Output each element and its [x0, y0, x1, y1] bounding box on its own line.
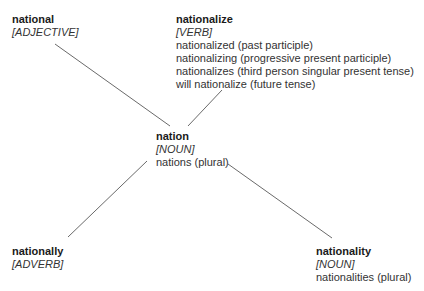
word-label: nation — [156, 130, 229, 143]
inflection-form: will nationalize (future tense) — [176, 78, 414, 91]
node-nationally: nationally [ADVERB] — [12, 245, 63, 271]
part-of-speech: [NOUN] — [316, 258, 411, 271]
part-of-speech: [NOUN] — [156, 143, 229, 156]
part-of-speech: [VERB] — [176, 26, 414, 39]
edge-nation-national — [55, 44, 170, 126]
inflection-form: nationalizing (progressive present parti… — [176, 52, 414, 65]
inflection-form: nationalities (plural) — [316, 271, 411, 284]
edge-nation-nationality — [228, 164, 332, 238]
node-national: national [ADJECTIVE] — [12, 13, 79, 39]
word-label: nationality — [316, 245, 411, 258]
word-label: national — [12, 13, 79, 26]
part-of-speech: [ADVERB] — [12, 258, 63, 271]
node-nationalize: nationalize [VERB] nationalized (past pa… — [176, 13, 414, 91]
edge-nation-nationalize — [188, 90, 222, 126]
inflection-form: nations (plural) — [156, 156, 229, 169]
word-label: nationalize — [176, 13, 414, 26]
edge-nation-nationally — [68, 161, 147, 237]
word-label: nationally — [12, 245, 63, 258]
node-nation-center: nation [NOUN] nations (plural) — [156, 130, 229, 169]
inflection-form: nationalizes (third person singular pres… — [176, 65, 414, 78]
inflection-form: nationalized (past participle) — [176, 39, 414, 52]
node-nationality: nationality [NOUN] nationalities (plural… — [316, 245, 411, 284]
part-of-speech: [ADJECTIVE] — [12, 26, 79, 39]
